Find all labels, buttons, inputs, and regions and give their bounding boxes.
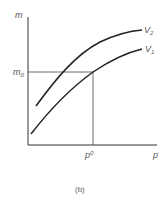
y-axis-label: m — [15, 10, 23, 20]
p0-label: p0 — [84, 150, 94, 160]
m0-label: m0 — [13, 67, 25, 78]
diagram-canvas: m p m0 p0 V2 V1 (b) — [0, 0, 163, 200]
curve-v2-label: V2 — [144, 25, 154, 36]
figure-caption: (b) — [75, 185, 85, 194]
x-axis-label: p — [152, 150, 158, 160]
curve-v2 — [36, 30, 142, 106]
curve-v1-label: V1 — [145, 44, 154, 55]
